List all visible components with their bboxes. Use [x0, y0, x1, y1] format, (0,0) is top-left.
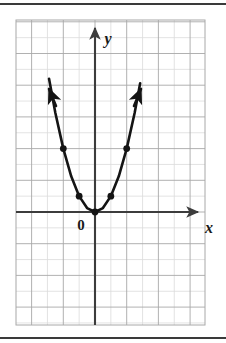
graph-figure: 0 x y: [0, 0, 226, 343]
data-point: [107, 193, 114, 200]
data-point: [123, 145, 130, 152]
origin-label: 0: [77, 217, 85, 233]
x-axis-label: x: [204, 219, 213, 236]
data-point: [60, 145, 67, 152]
data-point: [92, 209, 99, 216]
coordinate-plane: 0 x y: [0, 0, 226, 343]
y-axis-label: y: [102, 30, 112, 48]
data-point: [76, 193, 83, 200]
